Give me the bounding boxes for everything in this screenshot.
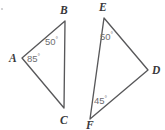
angle-label-e: 50°	[100, 31, 114, 43]
angle-degree-e: °	[111, 31, 114, 38]
vertex-label-c: C	[60, 114, 68, 126]
angle-label-b: 50°	[45, 36, 59, 48]
figure-canvas: A B C 50° 85° E D F 50° 45°	[0, 0, 165, 130]
triangle-abc: A B C 50° 85°	[8, 4, 68, 126]
triangle-abc-outline	[22, 21, 65, 108]
vertex-label-f: F	[85, 119, 94, 130]
angle-value-f: 45	[94, 95, 105, 106]
angle-degree-b: °	[56, 36, 59, 43]
geometry-figure: A B C 50° 85° E D F 50° 45°	[0, 0, 165, 130]
angle-label-a: 85°	[27, 53, 41, 65]
scan-speck	[1, 8, 3, 10]
vertex-label-d: D	[151, 64, 161, 76]
angle-value-b: 50	[45, 36, 56, 47]
vertex-label-e: E	[98, 1, 107, 13]
vertex-label-b: B	[59, 4, 68, 16]
angle-value-a: 85	[27, 53, 38, 64]
triangle-def: E D F 50° 45°	[85, 1, 161, 130]
angle-value-e: 50	[100, 31, 111, 42]
angle-label-f: 45°	[94, 95, 108, 107]
angle-degree-a: °	[38, 53, 41, 60]
vertex-label-a: A	[8, 52, 17, 64]
angle-degree-f: °	[105, 95, 108, 102]
